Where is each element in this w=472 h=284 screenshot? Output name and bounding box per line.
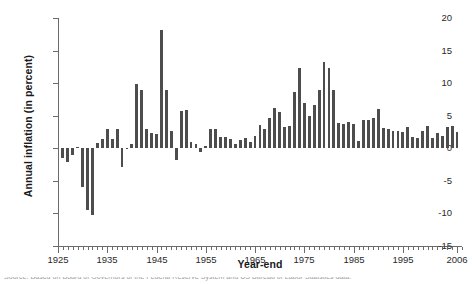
y-axis-title: Annual inflation (in percent) <box>22 6 34 246</box>
x-tick-mark-minor <box>186 247 187 250</box>
bar <box>332 90 335 148</box>
x-tick-mark-minor <box>388 247 389 250</box>
cropped-caption: Source: Based on Board of Governors of t… <box>0 277 472 284</box>
bar <box>254 136 257 148</box>
bar <box>76 147 79 148</box>
bar <box>401 132 404 148</box>
y-tick-label: 15 <box>402 46 452 56</box>
x-tick-mark-minor <box>245 247 246 250</box>
bar <box>86 148 89 210</box>
bar <box>116 129 119 148</box>
bar <box>411 137 414 148</box>
x-tick-mark-minor <box>97 247 98 250</box>
x-tick-mark-minor <box>418 247 419 250</box>
bar <box>199 148 202 151</box>
bar <box>278 112 281 148</box>
x-tick-mark-minor <box>117 247 118 250</box>
bar <box>185 110 188 148</box>
x-tick-mark-minor <box>147 247 148 250</box>
bar <box>357 141 360 148</box>
x-tick-mark-minor <box>102 247 103 250</box>
bar <box>145 129 148 149</box>
plot-area: 20151050-5-10-15 19251935194519551965197… <box>58 18 462 246</box>
y-tick-label: -15 <box>402 241 452 251</box>
y-tick-label: 5 <box>402 111 452 121</box>
x-tick-mark-major <box>58 247 59 253</box>
bar <box>195 144 198 148</box>
x-tick-mark-minor <box>359 247 360 250</box>
bar <box>91 148 94 215</box>
bar <box>126 148 129 149</box>
bar <box>244 138 247 148</box>
bar <box>451 126 454 148</box>
x-tick-mark-major <box>457 247 458 253</box>
x-tick-mark-minor <box>68 247 69 250</box>
bar <box>293 92 296 149</box>
x-tick-mark-minor <box>344 247 345 250</box>
x-tick-mark-minor <box>235 247 236 250</box>
x-tick-mark-minor <box>299 247 300 250</box>
x-tick-mark-minor <box>230 247 231 250</box>
inflation-bar-chart-figure: Annual inflation (in percent) 20151050-5… <box>0 0 472 284</box>
bar <box>66 148 69 162</box>
x-tick-mark-minor <box>432 247 433 250</box>
bar <box>421 131 424 149</box>
y-axis-line <box>58 18 59 247</box>
x-tick-mark-minor <box>280 247 281 250</box>
x-tick-mark-major <box>403 247 404 253</box>
bar <box>140 90 143 149</box>
x-tick-mark-minor <box>373 247 374 250</box>
x-tick-mark-minor <box>171 247 172 250</box>
bar <box>456 132 459 148</box>
x-tick-mark-minor <box>127 247 128 250</box>
bar <box>446 127 449 148</box>
bar <box>328 68 331 149</box>
bar <box>229 139 232 148</box>
x-tick-mark-major <box>107 247 108 253</box>
x-tick-mark-minor <box>294 247 295 250</box>
bar <box>130 144 133 149</box>
bar <box>234 144 237 149</box>
bar <box>367 120 370 149</box>
y-tick-label: -10 <box>402 208 452 218</box>
x-tick-mark-minor <box>329 247 330 250</box>
x-tick-mark-minor <box>260 247 261 250</box>
bar <box>135 84 138 148</box>
x-tick-mark-minor <box>265 247 266 250</box>
bar <box>239 140 242 148</box>
x-tick-mark-minor <box>447 247 448 250</box>
bar <box>209 129 212 148</box>
x-tick-mark-minor <box>378 247 379 250</box>
x-tick-mark-major <box>304 247 305 253</box>
bar <box>426 126 429 148</box>
x-tick-mark-major <box>255 247 256 253</box>
x-tick-mark-minor <box>142 247 143 250</box>
bar <box>268 118 271 149</box>
bar <box>406 127 409 148</box>
bar <box>204 146 207 149</box>
x-tick-mark-minor <box>152 247 153 250</box>
bar <box>313 105 316 149</box>
x-tick-mark-minor <box>383 247 384 250</box>
x-tick-mark-minor <box>88 247 89 250</box>
x-tick-mark-minor <box>201 247 202 250</box>
bar <box>61 148 64 158</box>
x-tick-mark-minor <box>368 247 369 250</box>
bar <box>111 139 114 148</box>
x-tick-mark-minor <box>112 247 113 250</box>
bar <box>283 127 286 148</box>
bar <box>416 138 419 148</box>
bar <box>337 123 340 148</box>
bar <box>352 124 355 149</box>
x-tick-mark-minor <box>226 247 227 250</box>
cropped-caption-text: Source: Based on Board of Governors of t… <box>0 277 472 280</box>
bar <box>71 148 74 155</box>
x-tick-mark-minor <box>423 247 424 250</box>
x-tick-mark-minor <box>83 247 84 250</box>
bar <box>347 122 350 148</box>
bar <box>436 133 439 149</box>
bar <box>362 120 365 149</box>
bar <box>397 131 400 149</box>
bar <box>155 134 158 148</box>
x-tick-mark-minor <box>452 247 453 250</box>
